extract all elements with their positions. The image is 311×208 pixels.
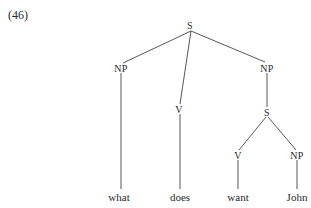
leaf-john: John	[287, 191, 308, 203]
tree-edges	[0, 0, 311, 208]
node-np-what: NP	[114, 63, 127, 74]
edge-s2-v2	[239, 117, 266, 150]
node-v-does: V	[175, 104, 183, 115]
node-s: S	[187, 20, 193, 31]
node-np-john: NP	[290, 150, 303, 161]
edge-s-np2	[191, 31, 265, 62]
edge-s-np1	[123, 31, 191, 63]
edge-s2-np3	[268, 117, 296, 150]
edge-s-v1	[180, 31, 191, 104]
node-v-want: V	[234, 150, 242, 161]
leaf-what: what	[108, 191, 129, 203]
node-s-embedded: S	[264, 107, 270, 118]
leaf-want: want	[227, 191, 248, 203]
node-np-right: NP	[260, 63, 273, 74]
leaf-does: does	[170, 191, 190, 203]
